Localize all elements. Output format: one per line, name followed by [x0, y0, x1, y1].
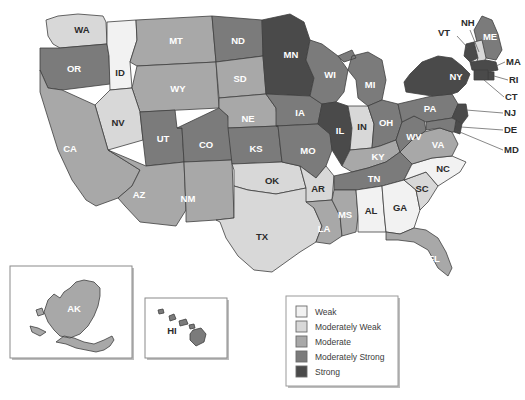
- map-canvas: WA OR ID MT WY NV UT: [0, 0, 525, 400]
- legend-label-moderately-strong: Moderately Strong: [315, 352, 385, 362]
- legend-label-moderate: Moderate: [315, 337, 351, 347]
- state-shape-RI[interactable]: [488, 72, 494, 80]
- state-label-CO: CO: [199, 139, 213, 150]
- state-label-MI: MI: [365, 79, 376, 90]
- legend-swatch-weak: [296, 306, 307, 317]
- state-label-AZ: AZ: [133, 189, 146, 200]
- legend-swatch-moderate: [296, 336, 307, 347]
- legend-label-weak: Weak: [315, 307, 337, 317]
- callout-label-NJ: NJ: [504, 107, 516, 118]
- state-shape-CT[interactable]: [474, 70, 488, 80]
- callout-label-CT: CT: [505, 91, 518, 102]
- state-label-MS: MS: [338, 209, 352, 220]
- state-label-CA: CA: [63, 143, 77, 154]
- us-choropleth-map: WA OR ID MT WY NV UT: [0, 0, 525, 400]
- alaska-inset[interactable]: AK: [10, 266, 134, 360]
- state-label-AR: AR: [311, 183, 325, 194]
- legend-item-strong[interactable]: Strong: [296, 366, 340, 377]
- state-label-ID: ID: [115, 67, 125, 78]
- state-label-KS: KS: [249, 143, 262, 154]
- state-label-MN: MN: [284, 49, 299, 60]
- state-label-NC: NC: [436, 163, 450, 174]
- legend-label-moderately-weak: Moderately Weak: [315, 322, 382, 332]
- state-CT[interactable]: [474, 70, 488, 80]
- state-label-ME: ME: [483, 31, 497, 42]
- legend-swatch-moderately-strong: [296, 351, 307, 362]
- callout-label-MA: MA: [506, 56, 521, 67]
- state-SD[interactable]: SD: [216, 56, 266, 98]
- state-label-OR: OR: [67, 63, 81, 74]
- legend-item-weak[interactable]: Weak: [296, 306, 337, 317]
- state-AL[interactable]: AL: [356, 186, 386, 232]
- state-label-IN: IN: [357, 121, 367, 132]
- legend-swatch-strong: [296, 366, 307, 377]
- state-label-SD: SD: [233, 73, 246, 84]
- legend-item-moderate[interactable]: Moderate: [296, 336, 351, 347]
- state-label-NM: NM: [181, 193, 196, 204]
- state-label-MO: MO: [300, 145, 315, 156]
- state-OR[interactable]: OR: [40, 44, 110, 90]
- state-label-FL: FL: [428, 253, 440, 264]
- state-label-TN: TN: [368, 173, 381, 184]
- state-WA[interactable]: WA: [46, 14, 107, 48]
- state-label-GA: GA: [393, 202, 407, 213]
- callout-label-NH: NH: [461, 17, 475, 28]
- state-label-NE: NE: [241, 113, 254, 124]
- state-KS[interactable]: KS: [228, 126, 282, 164]
- state-label-ND: ND: [231, 35, 245, 46]
- state-MT[interactable]: MT: [130, 16, 216, 66]
- state-label-IL: IL: [336, 125, 345, 136]
- state-label-VA: VA: [432, 139, 445, 150]
- state-label-TX: TX: [256, 231, 269, 242]
- state-label-SC: SC: [415, 183, 428, 194]
- state-ND[interactable]: ND: [212, 16, 263, 62]
- hawaii-inset[interactable]: HI: [145, 298, 229, 360]
- legend-label-strong: Strong: [315, 367, 340, 377]
- legend-swatch-moderately-weak: [296, 321, 307, 332]
- state-RI[interactable]: [488, 72, 494, 80]
- state-label-NV: NV: [111, 117, 125, 128]
- callout-label-RI: RI: [509, 74, 519, 85]
- state-label-AL: AL: [365, 205, 378, 216]
- state-label-KY: KY: [371, 151, 385, 162]
- state-label-WA: WA: [74, 24, 89, 35]
- callout-label-VT: VT: [438, 27, 450, 38]
- state-NM[interactable]: NM: [181, 160, 234, 222]
- state-label-IA: IA: [295, 107, 305, 118]
- state-label-WV: WV: [406, 131, 422, 142]
- state-NE[interactable]: NE: [219, 94, 278, 128]
- state-label-AK: AK: [67, 303, 81, 314]
- state-label-OK: OK: [265, 175, 279, 186]
- state-label-NY: NY: [449, 71, 463, 82]
- state-label-WI: WI: [324, 69, 336, 80]
- state-WY[interactable]: WY: [132, 62, 219, 112]
- state-label-WY: WY: [170, 83, 186, 94]
- state-label-PA: PA: [424, 103, 437, 114]
- hawaii-inset-box: [145, 298, 227, 358]
- state-label-LA: LA: [318, 223, 331, 234]
- callout-label-MD: MD: [504, 144, 519, 155]
- state-label-OH: OH: [379, 117, 393, 128]
- state-label-MT: MT: [169, 35, 183, 46]
- callout-label-DE: DE: [504, 124, 517, 135]
- state-shape-NM[interactable]: [184, 160, 234, 222]
- state-label-HI: HI: [167, 325, 177, 336]
- legend: Weak Moderately Weak Moderate Moderately…: [286, 296, 400, 388]
- state-label-UT: UT: [157, 133, 170, 144]
